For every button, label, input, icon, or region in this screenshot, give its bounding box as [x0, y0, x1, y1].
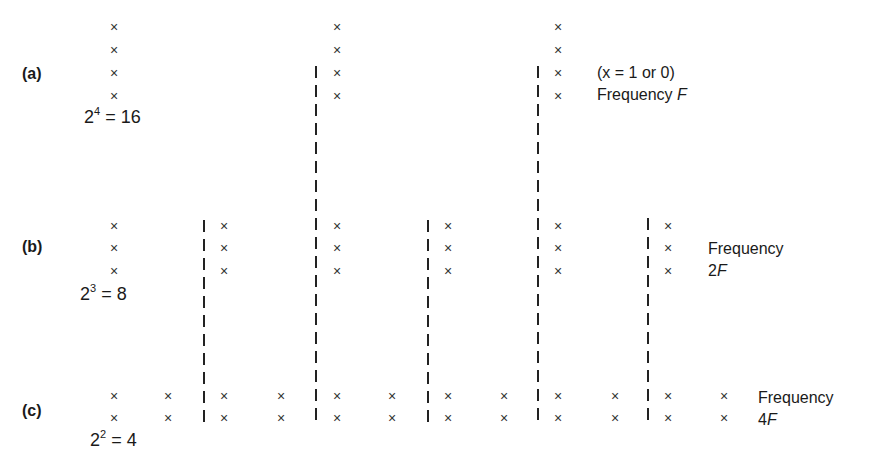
bit-mark-row-b: × [110, 219, 118, 233]
bit-mark-row-a: × [554, 20, 562, 34]
bit-mark-row-c: × [333, 411, 341, 425]
bit-mark-row-b: × [220, 264, 228, 278]
row-a-equation: 24 = 16 [84, 106, 141, 126]
bit-mark-row-c: × [444, 411, 452, 425]
bit-mark-row-b: × [444, 241, 452, 255]
bit-mark-row-c: × [388, 411, 396, 425]
bit-mark-row-a: × [333, 66, 341, 80]
bit-mark-row-c: × [554, 411, 562, 425]
bit-mark-row-c: × [664, 389, 672, 403]
row-a-label: (a) [22, 66, 42, 82]
annotation-frequency-value: 4F [758, 409, 834, 431]
annotation-frequency: Frequency [708, 238, 784, 260]
bit-mark-row-b: × [333, 219, 341, 233]
bit-mark-row-a: × [110, 20, 118, 34]
annotation-binary-note: (x = 1 or 0) [597, 62, 687, 84]
row-c-label: (c) [22, 403, 42, 419]
bit-mark-row-b: × [220, 219, 228, 233]
bit-frequency-diagram: (a) (b) (c) 24 = 16 23 = 8 22 = 4 (x = 1… [0, 0, 872, 462]
row-c-annotation: Frequency 4F [758, 387, 834, 432]
bit-mark-row-b: × [664, 241, 672, 255]
bit-mark-row-c: × [611, 411, 619, 425]
bit-mark-row-a: × [554, 43, 562, 57]
bit-mark-row-b: × [554, 241, 562, 255]
dashed-divider [647, 218, 649, 424]
bit-mark-row-c: × [110, 411, 118, 425]
bit-mark-row-b: × [664, 219, 672, 233]
bit-mark-row-a: × [110, 89, 118, 103]
bit-mark-row-a: × [110, 43, 118, 57]
bit-mark-row-c: × [333, 389, 341, 403]
bit-mark-row-c: × [720, 389, 728, 403]
bit-mark-row-c: × [164, 411, 172, 425]
annotation-frequency-value: 2F [708, 260, 784, 282]
bit-mark-row-b: × [444, 264, 452, 278]
bit-mark-row-a: × [333, 20, 341, 34]
dashed-divider [203, 220, 205, 426]
bit-mark-row-b: × [333, 264, 341, 278]
annotation-frequency: Frequency F [597, 84, 687, 106]
annotation-frequency: Frequency [758, 387, 834, 409]
bit-mark-row-c: × [277, 389, 285, 403]
bit-mark-row-c: × [277, 411, 285, 425]
row-a-annotation: (x = 1 or 0) Frequency F [597, 62, 687, 107]
bit-mark-row-b: × [664, 264, 672, 278]
row-c-equation: 22 = 4 [90, 429, 137, 449]
bit-mark-row-a: × [333, 89, 341, 103]
bit-mark-row-c: × [444, 389, 452, 403]
bit-mark-row-b: × [444, 219, 452, 233]
bit-mark-row-c: × [720, 411, 728, 425]
dashed-divider [315, 66, 317, 426]
bit-mark-row-c: × [164, 389, 172, 403]
row-b-label: (b) [22, 239, 42, 255]
bit-mark-row-a: × [554, 89, 562, 103]
dashed-divider [427, 220, 429, 426]
bit-mark-row-c: × [220, 411, 228, 425]
bit-mark-row-a: × [333, 43, 341, 57]
bit-mark-row-b: × [110, 264, 118, 278]
bit-mark-row-c: × [500, 411, 508, 425]
bit-mark-row-c: × [388, 389, 396, 403]
bit-mark-row-b: × [110, 241, 118, 255]
bit-mark-row-b: × [220, 241, 228, 255]
bit-mark-row-b: × [333, 241, 341, 255]
bit-mark-row-a: × [110, 66, 118, 80]
bit-mark-row-c: × [220, 389, 228, 403]
bit-mark-row-c: × [664, 411, 672, 425]
bit-mark-row-c: × [110, 389, 118, 403]
dashed-divider [537, 66, 539, 424]
bit-mark-row-c: × [554, 389, 562, 403]
row-b-equation: 23 = 8 [80, 283, 127, 303]
bit-mark-row-b: × [554, 219, 562, 233]
bit-mark-row-c: × [611, 389, 619, 403]
row-b-annotation: Frequency 2F [708, 238, 784, 283]
bit-mark-row-c: × [500, 389, 508, 403]
bit-mark-row-a: × [554, 66, 562, 80]
bit-mark-row-b: × [554, 264, 562, 278]
